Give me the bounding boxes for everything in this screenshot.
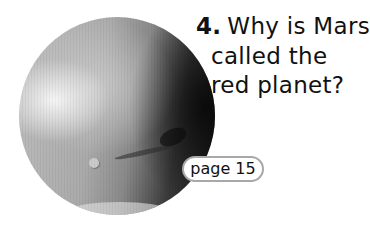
question-line-1-text: Why is Mars <box>227 13 370 39</box>
question-line-3: red planet? <box>196 71 356 101</box>
question-line-1: 4.Why is Mars <box>196 12 356 42</box>
question-number: 4. <box>196 13 221 39</box>
image-texture <box>19 17 215 215</box>
page-reference-badge: page 15 <box>182 156 264 182</box>
question-line-2: called the <box>196 42 356 72</box>
question-text: 4.Why is Mars called the red planet? <box>196 12 356 101</box>
mars-planet-image <box>19 17 215 215</box>
